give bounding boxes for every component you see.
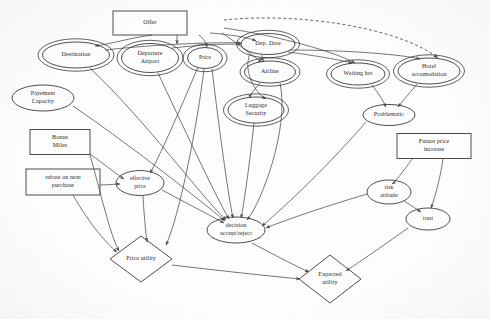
edge-future_price-to-trust (431, 159, 443, 208)
node-label-airline: Airline (261, 68, 279, 74)
node-eff_price[interactable]: effectiveprice (116, 171, 164, 196)
node-bonus[interactable]: BonusMiles (30, 130, 90, 155)
node-trust[interactable]: trust (406, 208, 450, 230)
node-label-offer: Offer (143, 19, 156, 25)
edge-dep_date-to-hotel (290, 50, 420, 59)
node-luggage[interactable]: LuggageSecurity (224, 94, 289, 126)
node-hotel[interactable]: Hotelaccomodation (394, 55, 465, 87)
node-label-trust: trust (423, 215, 434, 221)
node-exp_util[interactable]: Expectedutility (299, 255, 361, 303)
edge-luggage-to-decision (241, 123, 254, 218)
node-label-payement: PayementCapacity (31, 91, 56, 104)
node-layer: OfferDestinationDepartureAirportPriceDep… (12, 11, 471, 303)
edge-payement-to-decision (73, 106, 225, 221)
node-future_price[interactable]: Future priceincrease (397, 134, 471, 159)
node-problematic[interactable]: Problematic (363, 105, 415, 126)
edge-hotel-to-problematic (398, 84, 417, 107)
node-dep_airport[interactable]: DepartureAirport (117, 40, 183, 75)
node-price_util[interactable]: Price utility (110, 236, 172, 282)
edge-eff_price-to-price_util (143, 196, 147, 242)
node-risk[interactable]: riskattitude (367, 180, 411, 204)
node-label-price_util: Price utility (126, 255, 157, 261)
edge-risk-to-decision (266, 194, 367, 228)
influence-diagram: OfferDestinationDepartureAirportPriceDep… (0, 0, 490, 319)
node-label-price: Price (199, 54, 211, 60)
edge-decision-to-exp_util (252, 243, 309, 272)
edge-rebate-to-price_util (73, 195, 117, 252)
edge-destination-to-decision (90, 68, 226, 220)
node-offer[interactable]: Offer (113, 11, 187, 35)
node-label-destination: Destination (62, 51, 91, 57)
node-decision[interactable]: decisionaccept/reject (207, 217, 265, 243)
node-price[interactable]: Price (183, 44, 227, 71)
node-label-waiting_hrs: Waiting hrs (344, 70, 374, 76)
node-label-dep_airport: DepartureAirport (137, 51, 162, 64)
node-dep_date[interactable]: Dep. Date (237, 30, 300, 57)
node-payement[interactable]: PayementCapacity (12, 85, 74, 111)
edge-trust-to-exp_util (346, 228, 408, 271)
node-airline[interactable]: Airline (240, 58, 300, 86)
node-rebate[interactable]: rebate on nextpurchase (26, 169, 100, 195)
node-destination[interactable]: Destination (38, 39, 114, 71)
node-waiting_hrs[interactable]: Waiting hrs (327, 60, 390, 88)
node-label-luggage: LuggageSecurity (245, 103, 267, 116)
node-label-dep_date: Dep. Date (255, 40, 281, 46)
node-label-problematic: Problematic (374, 111, 405, 117)
edge-price-to-eff_price (150, 67, 198, 173)
edge-dep_airport-to-decision (158, 73, 229, 219)
diagram-canvas: OfferDestinationDepartureAirportPriceDep… (0, 0, 490, 319)
node-label-bonus: BonusMiles (52, 135, 69, 148)
edge-price-to-decision (212, 69, 233, 218)
edge-price_util-to-exp_util (172, 265, 300, 279)
edge-waiting_hrs-to-problematic (372, 85, 386, 107)
